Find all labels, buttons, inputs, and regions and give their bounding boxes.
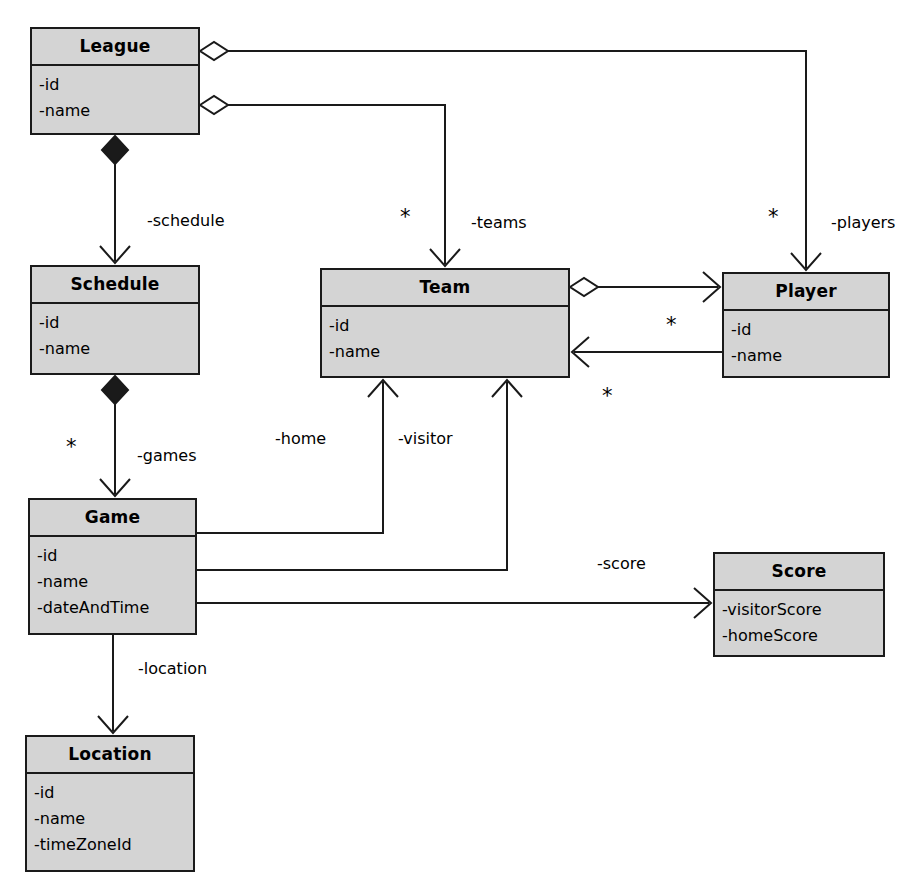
edge-game-score	[197, 588, 711, 618]
edge-game-home	[197, 380, 398, 533]
uml-class-diagram: League -id -name Schedule -id -name Team…	[0, 0, 923, 891]
attribute-row: -timeZoneId	[27, 832, 193, 858]
class-box-schedule[interactable]: Schedule -id -name	[30, 265, 200, 375]
class-box-score[interactable]: Score -visitorScore -homeScore	[713, 552, 885, 657]
class-name-player: Player	[724, 274, 888, 311]
class-attributes-player: -id -name	[724, 311, 888, 375]
class-name-team: Team	[322, 270, 568, 307]
edge-label-games: -games	[137, 446, 197, 465]
class-box-player[interactable]: Player -id -name	[722, 272, 890, 378]
class-attributes-location: -id -name -timeZoneId	[27, 774, 193, 864]
attribute-row: -dateAndTime	[30, 595, 195, 621]
class-box-game[interactable]: Game -id -name -dateAndTime	[28, 498, 197, 635]
multiplicity-teams: *	[400, 207, 411, 228]
class-name-league: League	[32, 29, 198, 66]
attribute-row: -name	[27, 806, 193, 832]
multiplicity-player-team: *	[602, 386, 613, 407]
class-name-score: Score	[715, 554, 883, 591]
edge-label-schedule: -schedule	[147, 211, 224, 230]
class-attributes-score: -visitorScore -homeScore	[715, 591, 883, 655]
edge-label-location: -location	[138, 659, 207, 678]
multiplicity-players: *	[768, 207, 779, 228]
multiplicity-team-player: *	[666, 315, 677, 336]
edge-label-visitor: -visitor	[398, 429, 453, 448]
multiplicity-games: *	[66, 437, 77, 458]
class-name-game: Game	[30, 500, 195, 537]
attribute-row: -name	[724, 343, 888, 369]
attribute-row: -visitorScore	[715, 597, 883, 623]
class-attributes-schedule: -id -name	[32, 304, 198, 368]
class-attributes-game: -id -name -dateAndTime	[30, 537, 195, 627]
edge-league-schedule	[100, 136, 130, 263]
attribute-row: -id	[32, 72, 198, 98]
edge-label-home: -home	[275, 429, 326, 448]
edge-league-teams	[200, 96, 460, 266]
edge-player-team	[572, 337, 722, 367]
attribute-row: -id	[32, 310, 198, 336]
attribute-row: -name	[322, 339, 568, 365]
class-attributes-team: -id -name	[322, 307, 568, 371]
attribute-row: -homeScore	[715, 623, 883, 649]
attribute-row: -id	[724, 317, 888, 343]
attribute-row: -id	[27, 780, 193, 806]
edge-game-visitor	[197, 380, 522, 570]
attribute-row: -name	[32, 98, 198, 124]
edge-game-location	[98, 635, 128, 733]
attribute-row: -name	[32, 336, 198, 362]
edge-league-players	[200, 42, 821, 270]
attribute-row: -name	[30, 569, 195, 595]
attribute-row: -id	[30, 543, 195, 569]
class-name-location: Location	[27, 737, 193, 774]
edge-team-players	[570, 272, 720, 302]
class-attributes-league: -id -name	[32, 66, 198, 130]
edge-label-players: -players	[831, 213, 895, 232]
edge-label-teams: -teams	[471, 213, 527, 232]
edge-schedule-games	[100, 376, 130, 496]
class-name-schedule: Schedule	[32, 267, 198, 304]
class-box-team[interactable]: Team -id -name	[320, 268, 570, 378]
class-box-league[interactable]: League -id -name	[30, 27, 200, 135]
attribute-row: -id	[322, 313, 568, 339]
edge-label-score: -score	[597, 554, 646, 573]
class-box-location[interactable]: Location -id -name -timeZoneId	[25, 735, 195, 872]
